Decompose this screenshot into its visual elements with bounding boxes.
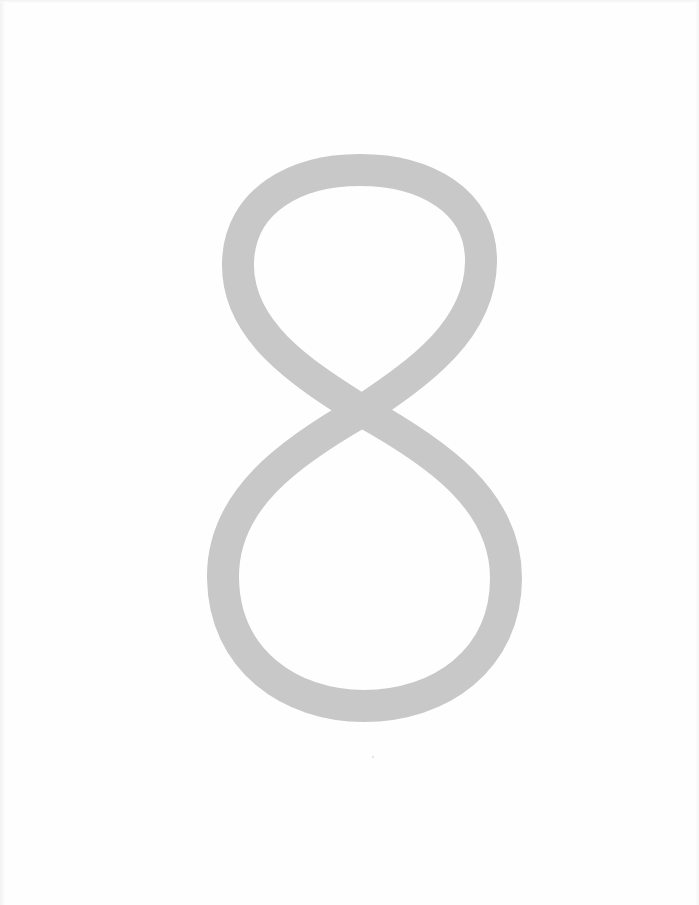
chapter-numeral-eight — [0, 0, 699, 905]
document-page: 8 — [0, 0, 699, 905]
scan-speck — [372, 756, 374, 758]
